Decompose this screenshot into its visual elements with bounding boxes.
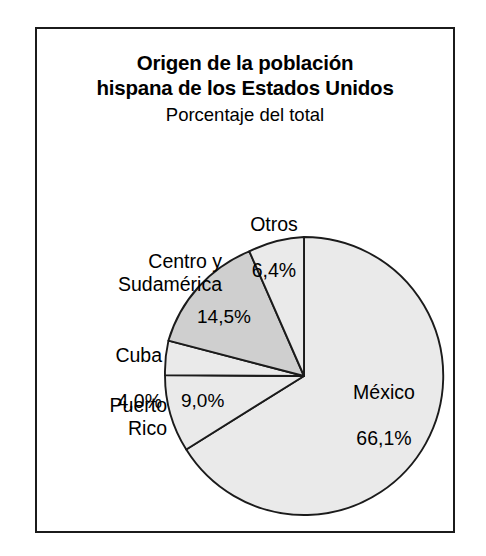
slice-label-mexico: México 66,1% [324, 358, 444, 473]
slice-label-otros-name: Otros [219, 213, 329, 236]
slice-value-otros: 6,4% [219, 259, 329, 282]
slice-value-mexico: 66,1% [324, 427, 444, 450]
slice-label-cuba-name: Cuba [22, 344, 162, 367]
slice-value-centro-sudamerica: 14,5% [197, 306, 251, 328]
figure-canvas: Origen de la población hispana de los Es… [0, 0, 486, 556]
slice-label-centro-sudamerica: Centro y Sudamérica [22, 250, 222, 296]
slice-label-puerto-rico: Puerto Rico [22, 394, 167, 440]
slice-value-puerto-rico: 9,0% [181, 390, 224, 412]
slice-label-mexico-name: México [324, 381, 444, 404]
pie-chart-area: 14,5% 9,0% México 66,1% Otros 6,4% Centr… [36, 28, 454, 532]
slice-label-otros: Otros 6,4% [219, 190, 329, 305]
